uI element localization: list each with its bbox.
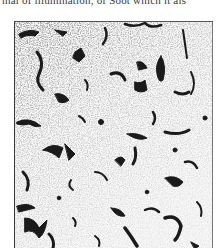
micrograph-figure bbox=[14, 21, 213, 248]
micrograph-image bbox=[15, 22, 213, 248]
cut-off-text-line: mal of illumination, of Soot which it al… bbox=[2, 0, 219, 6]
